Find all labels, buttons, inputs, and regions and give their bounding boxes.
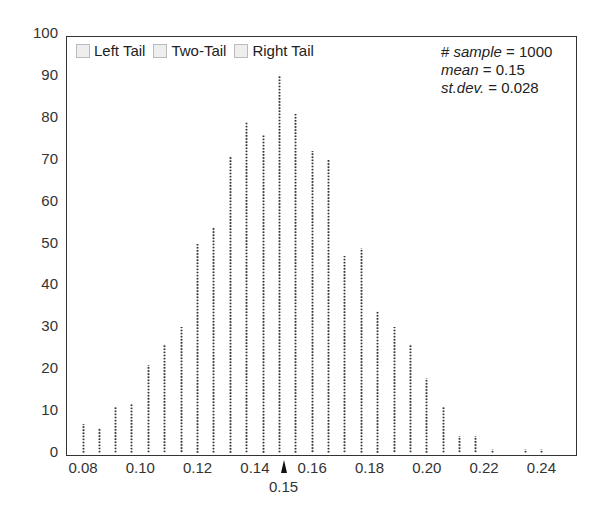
histogram-bar [458,436,461,453]
histogram-bar [262,135,265,453]
legend-left-tail[interactable]: Left Tail [76,42,145,59]
histogram-bar [409,344,412,453]
y-tick-label: 100 [18,24,58,41]
x-tick-label: 0.10 [126,459,155,476]
mean-stat: mean = 0.15 [441,61,552,79]
y-tick-label: 10 [18,401,58,418]
histogram-bar [294,114,297,453]
legend: Left Tail Two-Tail Right Tail [76,42,318,59]
x-tick-label: 0.16 [298,459,327,476]
x-tick-label: 0.24 [527,459,556,476]
histogram-bar [82,424,85,453]
histogram-bar [245,122,248,453]
histogram-bar [343,256,346,453]
y-tick-label: 20 [18,359,58,376]
x-tick-label: 0.18 [355,459,384,476]
y-tick-label: 90 [18,66,58,83]
legend-label: Right Tail [252,42,313,59]
histogram-bar [393,327,396,453]
checkbox-icon[interactable] [76,44,90,58]
histogram-bar [114,407,117,453]
sample-value: = 1000 [502,43,552,60]
y-tick-label: 0 [18,443,58,460]
histogram-bar [163,344,166,453]
histogram-bar [311,151,314,453]
histogram-bar [98,428,101,453]
histogram-bar [524,449,527,453]
sd-stat: st.dev. = 0.028 [441,79,552,97]
legend-right-tail[interactable]: Right Tail [234,42,313,59]
sd-value: = 0.028 [484,79,539,96]
histogram-bar [130,403,133,453]
histogram-bar [491,449,494,453]
histogram-bar [540,449,543,453]
checkbox-icon[interactable] [153,44,167,58]
y-tick-label: 30 [18,317,58,334]
checkbox-icon[interactable] [234,44,248,58]
y-tick-label: 50 [18,234,58,251]
mean-value: = 0.15 [479,61,525,78]
plot-frame [66,36,577,456]
y-tick-label: 70 [18,150,58,167]
x-tick-label: 0.22 [469,459,498,476]
x-tick-label: 0.14 [240,459,269,476]
legend-two-tail[interactable]: Two-Tail [153,42,226,59]
sample-size: # sample = 1000 [441,43,552,61]
histogram-bar [360,248,363,453]
histogram-bar [196,244,199,454]
y-tick-label: 60 [18,192,58,209]
histogram-bar [229,156,232,453]
mean-label: mean [441,61,479,78]
mean-marker-icon [281,460,287,473]
legend-label: Left Tail [94,42,145,59]
dot-histogram-chart: 0102030405060708090100 0.080.100.120.140… [0,0,609,514]
mean-marker-label: 0.15 [269,478,298,495]
x-tick-label: 0.08 [68,459,97,476]
x-tick-label: 0.12 [183,459,212,476]
histogram-bar [376,311,379,453]
legend-label: Two-Tail [171,42,226,59]
histogram-bar [180,327,183,453]
histogram-bar [212,227,215,453]
y-tick-label: 40 [18,275,58,292]
sample-label: sample [454,43,502,60]
y-tick-label: 80 [18,108,58,125]
histogram-bar [327,160,330,453]
summary-stats: # sample = 1000 mean = 0.15 st.dev. = 0.… [441,43,552,97]
histogram-bar [147,365,150,453]
histogram-bar [278,76,281,453]
x-tick-label: 0.20 [412,459,441,476]
histogram-bar [474,436,477,453]
histogram-bar [442,407,445,453]
histogram-bar [425,378,428,453]
sd-label: st.dev. [441,79,484,96]
